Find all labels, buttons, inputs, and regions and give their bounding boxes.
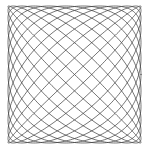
figure-panel: Lissajous curve xyxy=(0,0,149,154)
lissajous-curve-canvas xyxy=(0,0,149,154)
